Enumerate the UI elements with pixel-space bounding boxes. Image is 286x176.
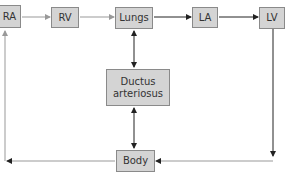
node-lv: LV [259, 7, 285, 29]
node-ra: RA [0, 5, 21, 28]
node-lv-label: LV [266, 12, 277, 24]
node-ra-label: RA [3, 11, 16, 23]
node-body: Body [116, 150, 155, 172]
node-la-label: LA [199, 12, 212, 24]
node-lungs-label: Lungs [119, 12, 149, 24]
node-body-label: Body [123, 155, 148, 167]
node-la: LA [192, 7, 218, 28]
node-ductus-arteriosus: Ductus arteriosus [106, 69, 170, 106]
node-rv-label: RV [58, 12, 71, 24]
node-ductus-label-1: Ductus [120, 76, 155, 88]
node-rv: RV [51, 7, 79, 28]
node-lungs: Lungs [115, 7, 153, 29]
node-ductus-label-2: arteriosus [113, 88, 163, 100]
